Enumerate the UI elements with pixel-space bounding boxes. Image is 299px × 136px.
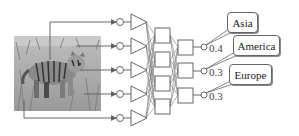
callout-asia: Asia bbox=[227, 12, 258, 33]
callout-america: America bbox=[233, 35, 280, 56]
callout-label-america: America bbox=[238, 40, 276, 52]
callout-europe: Europe bbox=[229, 64, 272, 85]
hidden-units bbox=[155, 28, 170, 114]
triangle-units bbox=[131, 14, 147, 126]
output-probability-asia: 0.4 bbox=[209, 42, 223, 54]
connections-layer2 bbox=[170, 35, 178, 107]
output-probability-europe: 0.3 bbox=[209, 90, 223, 102]
callout-label-europe: Europe bbox=[235, 69, 267, 81]
tiger-photo bbox=[14, 36, 101, 111]
callout-label-asia: Asia bbox=[232, 17, 252, 29]
output-probability-america: 0.3 bbox=[209, 66, 223, 78]
output-units bbox=[178, 40, 193, 103]
input-nodes bbox=[117, 19, 124, 122]
output-nodes bbox=[201, 44, 207, 98]
